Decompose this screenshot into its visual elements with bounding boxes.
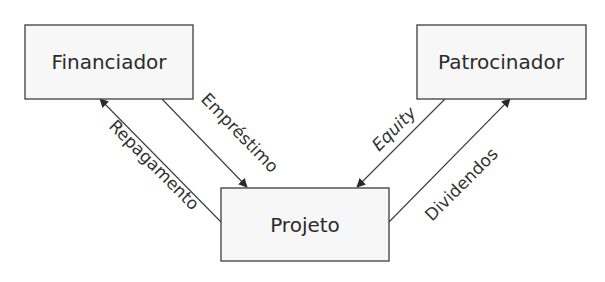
- financing-diagram: Empréstimo Repagamento Equity Dividendos…: [0, 0, 605, 282]
- node-label-projeto: Projeto: [270, 213, 340, 237]
- node-financiador: Financiador: [25, 25, 193, 99]
- edge-label-repagamento: Repagamento: [105, 116, 203, 214]
- edge-label-dividendos: Dividendos: [421, 144, 502, 225]
- edge-label-equity: Equity: [368, 102, 421, 155]
- node-label-financiador: Financiador: [51, 50, 167, 74]
- node-patrocinador: Patrocinador: [417, 25, 586, 99]
- edge-emprestimo: Empréstimo: [162, 89, 283, 187]
- edge-repagamento: Repagamento: [100, 99, 221, 222]
- node-projeto: Projeto: [221, 188, 389, 261]
- node-label-patrocinador: Patrocinador: [438, 50, 565, 74]
- edge-equity: Equity: [357, 99, 445, 187]
- edge-label-emprestimo: Empréstimo: [197, 89, 283, 177]
